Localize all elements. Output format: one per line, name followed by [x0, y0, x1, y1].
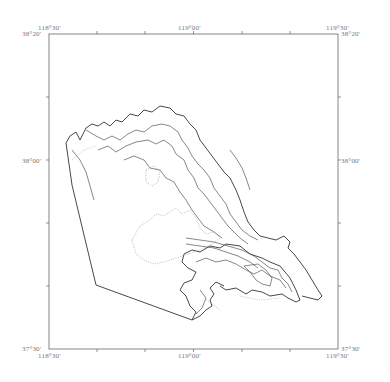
top-label-center: 119°00′: [178, 24, 201, 32]
left-label-middle: 38°00′: [22, 157, 42, 165]
bottom-label-left: 118°30′: [38, 352, 61, 360]
right-ticks: [338, 97, 341, 286]
map-canvas: [0, 0, 390, 382]
contour-lines: [72, 124, 292, 314]
dotted-boundary-north: [146, 166, 160, 186]
bottom-label-center: 119°00′: [178, 352, 201, 360]
right-label-top: 38°20′: [341, 30, 361, 38]
dotted-line-coast: [72, 146, 280, 310]
left-label-top: 38°20′: [22, 30, 42, 38]
right-label-bottom: 37°30′: [341, 345, 361, 353]
dotted-boundary: [132, 208, 220, 264]
bottom-label-right: 119°30′: [326, 352, 349, 360]
left-ticks: [46, 97, 49, 286]
right-label-middle: 38°00′: [341, 157, 361, 165]
left-label-bottom: 37°30′: [22, 345, 42, 353]
